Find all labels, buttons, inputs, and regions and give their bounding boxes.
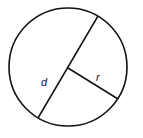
radius-label: r bbox=[96, 71, 101, 83]
circle-diagram: d r bbox=[0, 0, 143, 138]
radius-line bbox=[68, 68, 118, 99]
diameter-line bbox=[38, 16, 98, 118]
diameter-label: d bbox=[41, 76, 48, 88]
